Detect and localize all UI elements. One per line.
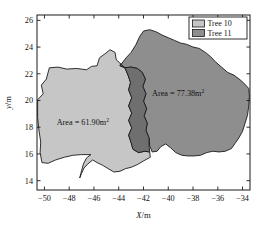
x-tick-label: −50	[38, 194, 51, 203]
area-label-tree-11: Area = 77.38m2	[152, 88, 204, 98]
x-tick-label: −44	[112, 194, 125, 203]
chart-legend[interactable]: Tree 10Tree 11	[189, 17, 247, 39]
x-tick-label: −46	[88, 194, 101, 203]
x-axis-title: X/m	[135, 210, 151, 220]
y-tick-label: 20	[25, 96, 33, 105]
x-tick-label: −42	[137, 194, 150, 203]
legend-swatch-tree-11[interactable]	[193, 30, 205, 37]
y-tick-label: 22	[25, 70, 33, 79]
legend-label-tree-10[interactable]: Tree 10	[208, 19, 232, 28]
y-axis-title: y/m	[3, 96, 13, 110]
y-tick-label: 14	[25, 177, 33, 186]
figure-container: Area = 61.90m2Area = 77.38m2 −50−48−46−4…	[0, 0, 262, 230]
x-tick-label: −40	[162, 194, 175, 203]
x-tick-label: −48	[63, 194, 76, 203]
y-tick-label: 18	[25, 123, 33, 132]
y-tick-label: 26	[25, 16, 33, 25]
x-tick-label: −36	[211, 194, 224, 203]
y-tick-label: 16	[25, 150, 33, 159]
area-label-tree-11-exponent: 2	[201, 88, 204, 94]
legend-label-tree-11[interactable]: Tree 11	[208, 29, 232, 38]
x-tick-label: −38	[187, 194, 200, 203]
y-tick-label: 24	[25, 43, 33, 52]
legend-swatch-tree-10[interactable]	[193, 20, 205, 27]
tree-crown-area-chart: Area = 61.90m2Area = 77.38m2 −50−48−46−4…	[0, 0, 262, 230]
area-label-tree-10-exponent: 2	[106, 117, 109, 123]
area-label-tree-10: Area = 61.90m2	[57, 117, 109, 127]
x-tick-label: −34	[236, 194, 249, 203]
